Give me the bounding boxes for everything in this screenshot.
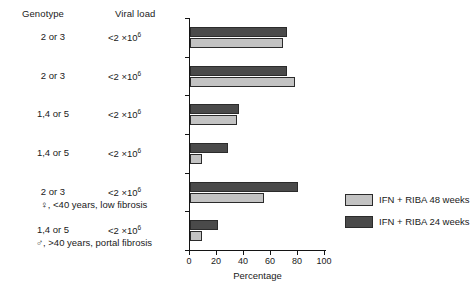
y-axis-tick bbox=[185, 211, 189, 212]
x-axis-tick bbox=[216, 251, 217, 255]
y-axis-line bbox=[189, 18, 190, 250]
y-axis-tick bbox=[185, 134, 189, 135]
plot-area bbox=[189, 18, 326, 250]
category-viral-load: <2 ×106 bbox=[108, 31, 186, 43]
viral-load-exponent: 6 bbox=[138, 31, 142, 38]
x-axis-tick-label: 0 bbox=[174, 256, 204, 266]
bar-24-weeks bbox=[190, 143, 228, 153]
table-header-row: Genotype Viral load bbox=[0, 8, 188, 24]
legend-swatch-24-weeks bbox=[345, 216, 373, 228]
legend-label-24-weeks: IFN + RIBA 24 weeks bbox=[379, 216, 470, 227]
category-viral-load: <2 ×106 bbox=[108, 147, 186, 159]
category-label-table: Genotype Viral load 2 or 3<2 ×1062 or 3<… bbox=[0, 8, 188, 253]
bar-48-weeks bbox=[190, 77, 295, 87]
category-viral-load: <2 ×106 bbox=[108, 224, 186, 236]
chart-figure: Genotype Viral load 2 or 3<2 ×1062 or 3<… bbox=[0, 0, 476, 290]
y-axis-tick bbox=[185, 173, 189, 174]
y-axis-tick bbox=[185, 18, 189, 19]
bar-48-weeks bbox=[190, 193, 264, 203]
x-axis-tick bbox=[243, 251, 244, 255]
x-axis-line bbox=[189, 250, 326, 251]
bar-48-weeks bbox=[190, 38, 283, 48]
viral-load-exponent: 6 bbox=[138, 186, 142, 193]
y-axis-tick bbox=[185, 95, 189, 96]
category-genotype: 1,4 or 5 bbox=[0, 108, 106, 119]
category-genotype: 2 or 3 bbox=[0, 31, 106, 42]
bar-48-weeks bbox=[190, 154, 202, 164]
bar-24-weeks bbox=[190, 27, 287, 37]
category-viral-load: <2 ×106 bbox=[108, 70, 186, 82]
category-subtitle: ♂, >40 years, portal fibrosis bbox=[0, 237, 188, 248]
legend-swatch-48-weeks bbox=[345, 194, 373, 206]
category-genotype: 2 or 3 bbox=[0, 186, 106, 197]
x-axis-tick-label: 60 bbox=[255, 256, 285, 266]
viral-load-exponent: 6 bbox=[138, 70, 142, 77]
x-axis-tick bbox=[324, 251, 325, 255]
bar-24-weeks bbox=[190, 104, 239, 114]
y-axis-tick bbox=[185, 57, 189, 58]
viral-load-exponent: 6 bbox=[138, 108, 142, 115]
category-viral-load: <2 ×106 bbox=[108, 108, 186, 120]
legend-label-48-weeks: IFN + RIBA 48 weeks bbox=[379, 194, 470, 205]
bar-24-weeks bbox=[190, 66, 287, 76]
x-axis-tick-label: 100 bbox=[309, 256, 339, 266]
category-genotype: 1,4 or 5 bbox=[0, 147, 106, 158]
header-viral-load: Viral load bbox=[115, 8, 155, 19]
bar-48-weeks bbox=[190, 115, 237, 125]
category-viral-load: <2 ×106 bbox=[108, 186, 186, 198]
x-axis-tick-label: 40 bbox=[228, 256, 258, 266]
x-axis-tick bbox=[270, 251, 271, 255]
bar-24-weeks bbox=[190, 182, 298, 192]
x-axis-title: Percentage bbox=[189, 270, 326, 281]
bar-48-weeks bbox=[190, 231, 202, 241]
bar-24-weeks bbox=[190, 220, 218, 230]
viral-load-exponent: 6 bbox=[138, 224, 142, 231]
viral-load-exponent: 6 bbox=[138, 147, 142, 154]
x-axis-tick bbox=[297, 251, 298, 255]
category-genotype: 2 or 3 bbox=[0, 70, 106, 81]
x-axis-tick bbox=[189, 251, 190, 255]
header-genotype: Genotype bbox=[22, 8, 64, 19]
x-axis-tick-label: 20 bbox=[201, 256, 231, 266]
category-genotype: 1,4 or 5 bbox=[0, 224, 106, 235]
category-subtitle: ♀, <40 years, low fibrosis bbox=[0, 199, 188, 210]
x-axis-tick-label: 80 bbox=[282, 256, 312, 266]
